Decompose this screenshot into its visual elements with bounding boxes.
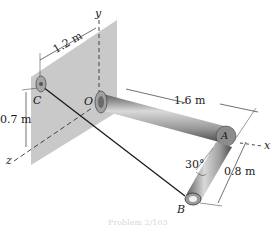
axis-label-z: z — [6, 155, 12, 166]
dim-label-0.7: 0.7 m — [0, 114, 31, 125]
x-axis — [240, 143, 262, 146]
point-label-c: C — [33, 95, 41, 106]
point-label-o: O — [84, 96, 93, 107]
axis-label-y: y — [95, 8, 101, 19]
angle-label-30: 30° — [185, 159, 205, 170]
dim-label-1.6: 1.6 m — [174, 95, 205, 106]
axis-label-x: x — [264, 140, 270, 151]
point-label-b: B — [177, 204, 185, 215]
pipe-oa — [100, 94, 228, 143]
figure-caption: Problem 2/103 — [108, 218, 168, 227]
point-label-a: A — [221, 131, 228, 141]
diagram-canvas — [0, 0, 276, 228]
dim-label-0.8: 0.8 m — [224, 166, 255, 177]
